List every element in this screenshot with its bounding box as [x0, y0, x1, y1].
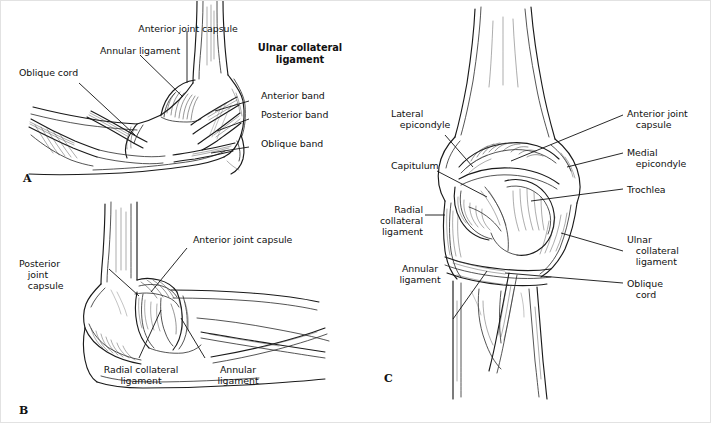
- label-lateral-epicondyle: Lateral epicondyle: [391, 108, 487, 130]
- trochlea-structure: [491, 180, 554, 256]
- central-capsule-fibers: [469, 187, 508, 251]
- label-capitulum: Capitulum: [391, 160, 487, 171]
- annular-ligament-structure-c: [445, 257, 551, 286]
- label-oblique-cord-c: Oblique cord: [627, 278, 711, 300]
- anterior-joint-capsule-structure: [161, 80, 201, 122]
- panel-letter-c: C: [384, 372, 393, 385]
- panel-c-leader-lines: [425, 115, 623, 319]
- panel-c: Lateral epicondyle Capitulum Radial coll…: [361, 1, 711, 423]
- label-anterior-joint-capsule-c: Anterior joint capsule: [627, 108, 711, 130]
- panel-a: Anterior joint capsule Annular ligament …: [1, 1, 361, 201]
- panel-letter-b: B: [19, 404, 28, 417]
- label-anterior-joint-capsule-b: Anterior joint capsule: [193, 234, 353, 245]
- label-ulnar-collateral-ligament-title: Ulnar collateral ligament: [243, 42, 357, 66]
- capitulum-structure: [454, 187, 492, 240]
- label-radial-collateral-ligament-b: Radial collateral ligament: [89, 364, 193, 386]
- label-medial-epicondyle: Medial epicondyle: [627, 147, 711, 169]
- label-oblique-band: Oblique band: [261, 138, 371, 149]
- label-posterior-band: Posterior band: [261, 109, 371, 120]
- label-ulnar-collateral-ligament-c: Ulnar collateral ligament: [627, 234, 711, 268]
- panel-b-illustration: [1, 186, 361, 423]
- oblique-cord-structure-c: [489, 273, 517, 373]
- label-anterior-joint-capsule: Anterior joint capsule: [93, 23, 283, 34]
- ulnar-collateral-ligament-structure-c: [540, 203, 577, 277]
- label-oblique-cord: Oblique cord: [19, 67, 139, 78]
- label-radial-collateral-ligament-c: Radial collateral ligament: [361, 204, 423, 238]
- panel-letter-a: A: [23, 172, 32, 185]
- label-annular-ligament: Annular ligament: [55, 45, 225, 56]
- label-annular-ligament-b: Annular ligament: [197, 364, 279, 386]
- panel-b: Anterior joint capsule Posterior joint c…: [1, 186, 361, 423]
- label-anterior-band: Anterior band: [261, 90, 371, 101]
- label-posterior-joint-capsule: Posterior joint capsule: [19, 258, 115, 292]
- label-trochlea: Trochlea: [627, 184, 711, 195]
- label-annular-ligament-c: Annular ligament: [381, 263, 459, 285]
- oblique-cord-structure: [29, 111, 165, 166]
- posterior-joint-capsule-structure: [85, 324, 141, 364]
- radial-collateral-ligament-structure: [136, 292, 174, 348]
- anatomy-figure: Anterior joint capsule Annular ligament …: [0, 0, 711, 423]
- forearm-cross-straps: [197, 318, 329, 363]
- panel-b-leader-lines: [109, 248, 205, 358]
